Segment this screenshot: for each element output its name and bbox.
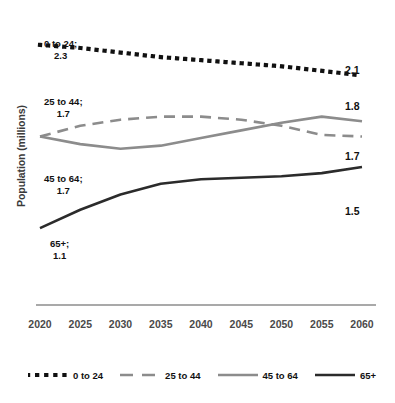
x-tick-2055: 2055 [310, 318, 333, 330]
legend-item-65[interactable]: 65+ [315, 369, 376, 381]
end-label-25-to-44: 1.7 [345, 150, 360, 163]
annotation-65-plus-name: 65+; [50, 238, 69, 250]
legend-item-45-to-64[interactable]: 45 to 64 [218, 369, 298, 381]
x-tick-2060: 2060 [350, 318, 373, 330]
end-label-0-to-24: 2.1 [345, 64, 360, 77]
annotation-45-to-64-name: 45 to 64; [44, 173, 83, 185]
x-tick-2020: 2020 [28, 318, 51, 330]
x-tick-2025: 2025 [69, 318, 92, 330]
legend-swatch-45-to-64-icon [218, 369, 258, 381]
x-tick-2040: 2040 [189, 318, 212, 330]
annotation-65-plus: 65+; 1.1 [50, 238, 69, 262]
annotation-0-to-24-value: 2.3 [44, 50, 77, 62]
legend-swatch-0-to-24-icon [28, 369, 68, 381]
end-label-45-to-64: 1.8 [345, 100, 360, 113]
legend-item-25-to-44[interactable]: 25 to 44 [120, 369, 200, 381]
legend-swatch-65-icon [315, 369, 355, 381]
legend-label-65: 65+ [360, 370, 376, 381]
annotation-65-plus-value: 1.1 [50, 250, 69, 262]
x-tick-2035: 2035 [149, 318, 172, 330]
x-axis-tick-labels: 202020252030203520402045205020552060 [36, 318, 388, 336]
chart-legend: 0 to 2425 to 4445 to 6465+ [28, 364, 380, 386]
legend-item-0-to-24[interactable]: 0 to 24 [28, 369, 103, 381]
annotation-25-to-44-value: 1.7 [44, 108, 83, 120]
series-line-65 [40, 167, 362, 228]
annotation-25-to-44: 25 to 44; 1.7 [44, 96, 83, 120]
series-line-0-to-24 [40, 45, 362, 76]
series-line-25-to-44 [40, 117, 362, 137]
legend-label-0-to-24: 0 to 24 [73, 370, 103, 381]
population-projection-line-chart: Population (millions) 202020252030203520… [0, 0, 395, 403]
legend-label-25-to-44: 25 to 44 [165, 370, 200, 381]
annotation-25-to-44-name: 25 to 44; [44, 96, 83, 108]
series-canvas [36, 8, 388, 313]
annotation-45-to-64-value: 1.7 [44, 185, 83, 197]
annotation-45-to-64: 45 to 64; 1.7 [44, 173, 83, 197]
y-axis-title: Population (millions) [15, 91, 27, 221]
end-label-65-plus: 1.5 [345, 205, 360, 218]
legend-swatch-25-to-44-icon [120, 369, 160, 381]
legend-label-45-to-64: 45 to 64 [263, 370, 298, 381]
x-tick-2050: 2050 [270, 318, 293, 330]
x-tick-2045: 2045 [230, 318, 253, 330]
plot-area [36, 8, 388, 313]
annotation-0-to-24-name: 0 to 24; [44, 38, 77, 50]
x-tick-2030: 2030 [109, 318, 132, 330]
annotation-0-to-24: 0 to 24; 2.3 [44, 38, 77, 62]
